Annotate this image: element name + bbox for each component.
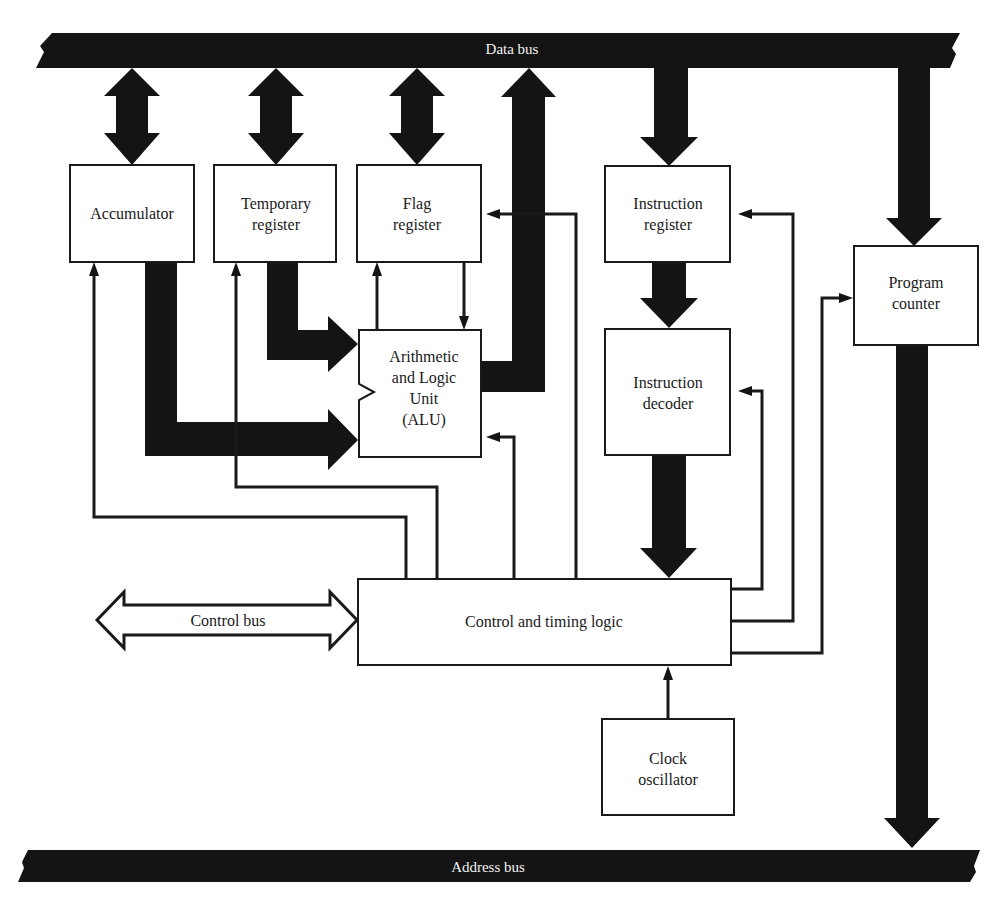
databus-to-program-counter-arrow [886,68,942,246]
temp-register-to-alu-arrow [267,262,358,372]
alu-label-1: Arithmetic [389,348,458,365]
accumulator-databus-arrow [104,68,160,165]
accumulator-label: Accumulator [90,205,174,222]
temporary-register-label-2: register [252,216,301,234]
program-counter-to-addressbus-arrow [884,345,940,848]
temp-register-control-arrowhead [231,262,241,276]
databus-to-instruction-register-arrow [640,68,698,166]
instruction-register-label-2: register [644,216,693,234]
ir-control-arrowhead [738,209,752,219]
data-bus-label: Data bus [486,41,539,57]
ir-to-decoder-arrow [640,262,698,328]
decoder-to-control-arrow [640,455,697,578]
control-to-decoder-line [731,391,762,589]
alu-label-2: and Logic [392,369,456,387]
cpu-block-diagram: Data bus Address bus [0,0,1007,914]
program-counter-label-1: Program [888,274,944,292]
accumulator-block: Accumulator [70,165,194,262]
control-to-pc-line [731,298,842,653]
alu-label-4: (ALU) [402,411,446,429]
clock-arrowhead [663,666,673,680]
accumulator-to-alu-arrow [145,262,358,470]
address-bus: Address bus [18,850,980,882]
decoder-control-arrowhead [738,386,752,396]
instruction-register-block: Instruction register [605,166,730,262]
flag-register-label-1: Flag [403,195,431,213]
alu-control-arrowhead [486,432,500,442]
control-to-alu-line [495,437,514,578]
control-bus-label: Control bus [190,612,265,629]
temp-register-databus-arrow [248,68,304,165]
instruction-decoder-block: Instruction decoder [605,329,730,455]
instruction-decoder-label-2: decoder [643,395,694,412]
clock-oscillator-label-2: oscillator [638,771,698,788]
pc-control-arrowhead [839,293,853,303]
clock-oscillator-block: Clock oscillator [602,719,734,815]
flag-register-databus-arrow [389,68,445,165]
instruction-decoder-label-1: Instruction [633,374,702,391]
flag-register-control-arrowhead [486,209,500,219]
instruction-register-label-1: Instruction [633,195,702,212]
accumulator-control-arrowhead [89,262,99,276]
control-bus-arrow: Control bus [97,592,357,648]
temporary-register-block: Temporary register [214,165,336,262]
control-timing-label: Control and timing logic [465,613,623,631]
alu-to-flag-arrowhead [372,262,382,276]
address-bus-label: Address bus [451,859,525,875]
control-timing-block: Control and timing logic [358,579,731,665]
program-counter-block: Program counter [854,246,978,345]
data-bus: Data bus [36,33,960,68]
alu-label-3: Unit [410,390,439,407]
flag-register-label-2: register [393,216,442,234]
temporary-register-label-1: Temporary [241,195,311,213]
alu-block: Arithmetic and Logic Unit (ALU) [359,330,481,457]
program-counter-label-2: counter [892,295,941,312]
flag-to-alu-arrowhead [459,316,469,330]
flag-register-block: Flag register [357,165,481,262]
clock-oscillator-label-1: Clock [649,750,687,767]
